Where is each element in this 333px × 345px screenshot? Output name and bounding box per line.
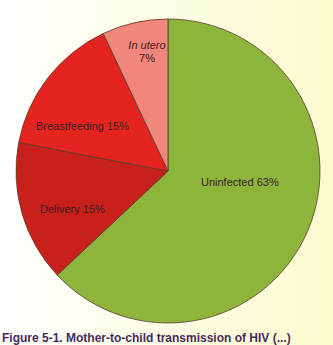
figure-caption: Figure 5-1. Mother-to-child transmission…: [2, 331, 291, 345]
label-delivery: Delivery 15%: [40, 203, 105, 216]
label-in-utero-value: 7%: [122, 52, 172, 65]
label-breastfeeding: Breastfeeding 15%: [36, 120, 129, 133]
label-in-utero-name: In utero: [122, 39, 172, 52]
label-in-utero: In utero 7%: [122, 39, 172, 65]
label-uninfected: Uninfected 63%: [201, 176, 279, 189]
